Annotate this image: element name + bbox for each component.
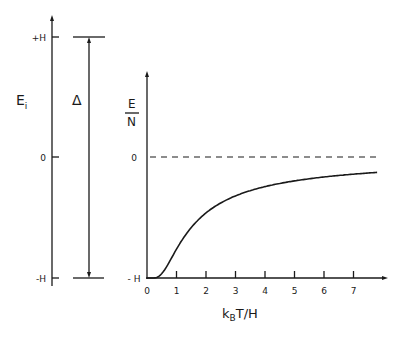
x-tick-label-4: 4 (262, 286, 268, 296)
x-tick-label-6: 6 (321, 286, 327, 296)
y-axis-arrowhead (145, 71, 149, 77)
gap-label: Δ (72, 92, 82, 108)
gap-arrow-head-up (87, 37, 91, 43)
y-tick-label-zero: 0 (131, 153, 137, 163)
x-axis-arrowhead (382, 276, 388, 280)
energy-axis-label: Ei (16, 92, 27, 111)
x-tick-label-0: 0 (144, 286, 150, 296)
energy-temperature-plot: E N 0 - H 01234567 kBT/H (125, 71, 388, 323)
x-ticks: 01234567 (144, 271, 356, 296)
y-tick-label-minus-h: - H (128, 274, 141, 284)
tick-label-minus-h: -H (36, 274, 46, 284)
x-tick-label-3: 3 (233, 286, 239, 296)
gap-arrow-head-down (87, 272, 91, 278)
x-tick-label-1: 1 (174, 286, 180, 296)
y-axis-label-numerator: E (128, 97, 136, 111)
tick-label-plus-h: +H (32, 33, 46, 43)
x-tick-label-7: 7 (351, 286, 357, 296)
energy-level-diagram: +H 0 -H Ei Δ (16, 15, 105, 286)
figure: +H 0 -H Ei Δ E N 0 - H 01234567 kBT/H (0, 0, 401, 337)
energy-curve (147, 172, 377, 278)
x-tick-label-5: 5 (292, 286, 298, 296)
energy-axis-arrowhead (50, 15, 54, 21)
y-axis-label-denominator: N (127, 115, 136, 129)
tick-label-zero: 0 (40, 153, 46, 163)
x-tick-label-2: 2 (203, 286, 209, 296)
x-axis-label: kBT/H (222, 306, 258, 323)
